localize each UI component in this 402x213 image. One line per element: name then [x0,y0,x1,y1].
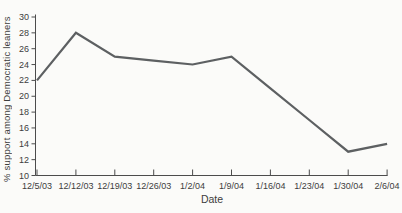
y-tick-label: 24 [19,60,29,70]
x-tick-label: 1/16/04 [255,181,285,191]
y-tick-label: 12 [19,155,29,165]
y-axis-title: % support among Democratic leaners [1,8,14,190]
y-tick-label: 22 [19,75,29,85]
line-chart-svg: 101214161820222426283012/5/0312/12/0312/… [0,0,402,213]
y-tick-label: 30 [19,12,29,22]
y-tick-label: 14 [19,139,29,149]
y-tick-label: 10 [19,171,29,181]
y-tick-label: 28 [19,28,29,38]
x-axis-title: Date [36,193,388,205]
x-tick-label: 12/12/03 [58,181,93,191]
y-tick-label: 18 [19,107,29,117]
y-tick-label: 16 [19,123,29,133]
x-tick-label: 1/23/04 [294,181,324,191]
y-tick-label: 26 [19,44,29,54]
chart: 101214161820222426283012/5/0312/12/0312/… [0,0,402,213]
x-tick-label: 1/30/04 [333,181,363,191]
y-tick-label: 20 [19,91,29,101]
x-tick-label: 12/26/03 [136,181,171,191]
series-line [37,33,387,152]
x-tick-label: 12/19/03 [97,181,132,191]
x-tick-label: 1/2/04 [180,181,205,191]
x-tick-label: 2/6/04 [375,181,400,191]
x-tick-label: 12/5/03 [22,181,52,191]
x-tick-label: 1/9/04 [219,181,244,191]
